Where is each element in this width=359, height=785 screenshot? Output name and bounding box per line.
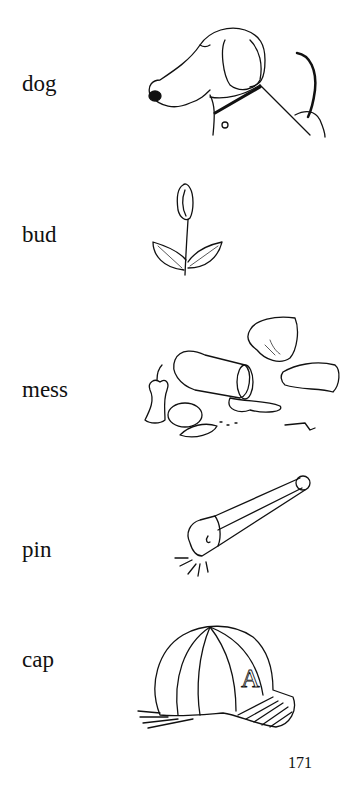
- mess-illustration: [135, 310, 350, 449]
- word-pin: pin: [22, 538, 51, 561]
- cap-letter: A: [241, 664, 260, 693]
- word-dog: dog: [22, 72, 57, 95]
- dog-illustration: [145, 25, 335, 154]
- rose-bud-illustration: [148, 180, 228, 284]
- word-mess: mess: [22, 378, 68, 401]
- word-bud: bud: [22, 223, 57, 246]
- word-cap: cap: [22, 648, 54, 671]
- safety-pin-illustration: [170, 468, 315, 587]
- baseball-cap-illustration: A: [138, 615, 303, 739]
- page-number: 171: [288, 754, 312, 772]
